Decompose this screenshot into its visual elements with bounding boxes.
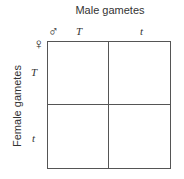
female-allele-1: T	[31, 66, 37, 78]
male-allele-2: t	[140, 25, 143, 37]
punnett-cell-tt	[109, 105, 170, 168]
female-gametes-label: Female gametes	[11, 51, 23, 161]
male-symbol-icon: ♂	[48, 24, 59, 38]
female-allele-2: t	[32, 132, 35, 144]
punnett-cell-tT	[48, 105, 109, 168]
punnett-cell-TT	[48, 42, 109, 105]
punnett-square	[47, 41, 171, 169]
punnett-cell-Tt	[109, 42, 170, 105]
female-symbol-icon: ♀	[33, 36, 44, 51]
male-allele-1: T	[76, 25, 82, 37]
male-gametes-label: Male gametes	[48, 4, 172, 16]
